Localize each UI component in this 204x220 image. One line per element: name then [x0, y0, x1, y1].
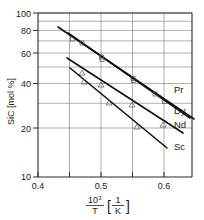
y-tick-20: 20	[21, 124, 31, 134]
y-tick-80: 80	[21, 26, 31, 36]
series-line-dy	[68, 33, 190, 118]
x-axis-denominator: T	[92, 206, 98, 216]
series-label-sc: Sc	[174, 141, 185, 152]
series-label-pr: Pr	[174, 84, 184, 95]
data-point-marker	[129, 102, 135, 107]
y-tick-10: 10	[21, 172, 31, 182]
x-axis-bracket-open: [	[107, 198, 111, 214]
x-tick-0.4: 0.4	[32, 181, 45, 191]
x-axis-numerator-exponent: 3	[98, 195, 102, 201]
vertical-gridlines	[70, 13, 165, 177]
x-axis-numerator: 10	[88, 195, 98, 205]
x-axis-ticks	[38, 172, 164, 177]
x-axis-title: 10 3 T [ 1 K ]	[86, 195, 130, 217]
series-line-nd	[67, 58, 183, 133]
x-axis-unit-denominator: K	[115, 206, 121, 216]
series-label-nd: Nd	[174, 119, 186, 130]
y-tick-100: 100	[16, 9, 31, 19]
x-tick-0.6: 0.6	[158, 181, 171, 191]
x-tick-0.5: 0.5	[95, 181, 108, 191]
y-tick-60: 60	[21, 49, 31, 59]
y-tick-40: 40	[21, 79, 31, 89]
series-label-dy: Dy	[174, 105, 186, 116]
y-axis-title: SiC [mol %]	[6, 78, 16, 125]
x-axis-unit-numerator: 1	[115, 195, 120, 205]
chart-figure: 100 80 60 40 20 10 0.4 0.5 0.6 SiC [mol …	[0, 0, 204, 220]
horizontal-gridlines	[38, 13, 192, 128]
plot-frame	[38, 13, 192, 177]
arrhenius-sic-plot: 100 80 60 40 20 10 0.4 0.5 0.6 SiC [mol …	[0, 0, 204, 220]
y-axis-ticks	[33, 13, 38, 177]
data-point-marker	[160, 122, 166, 127]
series-line-sc	[70, 68, 167, 148]
data-point-marker	[79, 70, 85, 75]
x-axis-bracket-close: ]	[126, 198, 130, 214]
